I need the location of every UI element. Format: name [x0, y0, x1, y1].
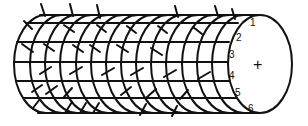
cylinder-diagram: + 1 2 3 4 5 6: [0, 0, 308, 126]
row-label-3: 3: [229, 49, 235, 60]
plus-sign: +: [253, 56, 262, 73]
cylinder-body: [14, 4, 258, 116]
row-label-2: 2: [236, 32, 242, 43]
row-label-5: 5: [235, 87, 241, 98]
row-label-4: 4: [229, 70, 235, 81]
row-label-6: 6: [248, 103, 254, 114]
cylinder-svg: + 1 2 3 4 5 6: [0, 0, 308, 126]
row-label-1: 1: [250, 17, 256, 28]
